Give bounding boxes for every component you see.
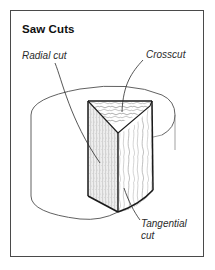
page-title: Saw Cuts [22,23,75,35]
callout-label-tangential-cut: Tangential cut [141,218,193,241]
callout-label-radial-cut: Radial cut [22,50,66,62]
callout-label-crosscut: Crosscut [146,49,185,61]
saw-cuts-figure: Saw Cuts Radial cut Crosscut Tangential … [0,0,215,270]
wedge-right-vertical-edge [152,101,153,190]
wedge-cutaway [80,95,165,218]
